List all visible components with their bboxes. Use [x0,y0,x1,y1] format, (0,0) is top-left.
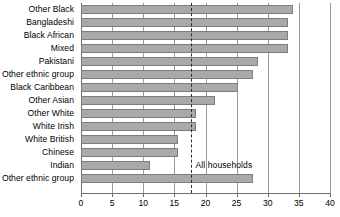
bar-row [81,3,330,16]
bar [81,135,178,144]
x-tick-20 [206,193,207,197]
bar [81,31,288,40]
x-tick-label-40: 40 [320,198,340,208]
category-axis-labels: Other BlackBangladeshiBlack AfricanMixed… [0,3,78,193]
bar-row [81,42,330,55]
bar-row [81,29,330,42]
gridline-40 [330,3,331,193]
x-tick-10 [143,193,144,197]
bar-row [81,120,330,133]
bar-row [81,133,330,146]
category-label: Indian [0,159,74,172]
bar [81,96,215,105]
bar [81,57,258,66]
x-tick-label-30: 30 [258,198,278,208]
bar [81,83,238,92]
all-households-reference-label: All households [196,160,253,170]
category-label: Other ethnic group [0,68,74,81]
x-tick-label-25: 25 [227,198,247,208]
category-label: Other Black [0,3,74,16]
category-label: Other White [0,107,74,120]
bar-row [81,94,330,107]
bar [81,5,293,14]
bar-row [81,55,330,68]
x-tick-label-35: 35 [289,198,309,208]
category-label: White Irish [0,120,74,133]
category-label: Black Caribbean [0,81,74,94]
x-tick-5 [112,193,113,197]
x-tick-40 [330,193,331,197]
bar-row [81,16,330,29]
x-tick-label-5: 5 [102,198,122,208]
all-households-reference-line [191,3,192,193]
bar [81,148,178,157]
category-label: Mixed [0,42,74,55]
bar [81,161,150,170]
category-label: Other Asian [0,94,74,107]
x-tick-25 [237,193,238,197]
x-tick-label-10: 10 [133,198,153,208]
category-label: Chinese [0,146,74,159]
bar-row [81,107,330,120]
bar-row [81,68,330,81]
category-label: White British [0,133,74,146]
bar-row [81,81,330,94]
x-tick-30 [268,193,269,197]
x-tick-15 [174,193,175,197]
x-tick-0 [81,193,82,197]
bar [81,109,196,118]
bar [81,174,253,183]
x-tick-label-20: 20 [196,198,216,208]
plot-area: All households [81,3,330,193]
x-tick-label-0: 0 [71,198,91,208]
category-label: Other ethnic group [0,172,74,185]
bar-row [81,146,330,159]
category-label: Pakistani [0,55,74,68]
bar [81,122,196,131]
x-tick-35 [299,193,300,197]
x-tick-label-15: 15 [164,198,184,208]
bar [81,18,288,27]
category-label: Black African [0,29,74,42]
bar [81,44,288,53]
bar [81,70,253,79]
category-label: Bangladeshi [0,16,74,29]
bar-row [81,172,330,185]
